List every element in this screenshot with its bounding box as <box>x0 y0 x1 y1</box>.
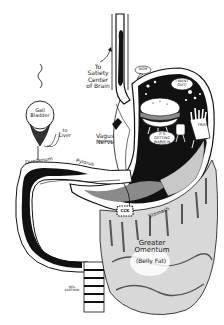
small-intestine <box>84 262 104 312</box>
cck-label: CCK <box>118 209 132 213</box>
label-greater-omentum: Greater Omentum <box>130 240 174 255</box>
esophagus <box>112 14 130 104</box>
label-vagus-nerve: Vagus Nerve <box>92 133 118 146</box>
label-gall-bladder: Gall Bladder <box>28 108 52 119</box>
label-satiety-center: To Satiety Center of Brain <box>78 64 118 89</box>
fries-label: FRIES <box>197 124 209 128</box>
label-belly-fat: (Belly Fat) <box>128 258 174 264</box>
bubble-text-want-out: I WANT OUT! <box>172 80 192 88</box>
artist-signature: NEIL KARTMAN <box>64 286 80 292</box>
label-to-liver: to Liver <box>56 128 74 139</box>
bubble-text-nom: NOM <box>135 68 151 72</box>
satiety-arrow <box>100 50 110 62</box>
bubble-text-warm: IT'S GETTING WARM IN HERE! <box>150 133 174 148</box>
